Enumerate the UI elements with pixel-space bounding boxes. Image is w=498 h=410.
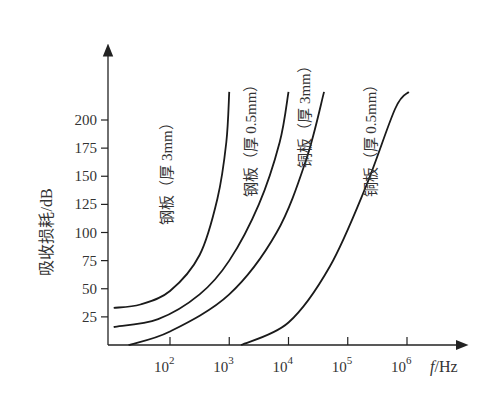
- absorption-loss-chart: 255075100125150175200 102103104105106 吸收…: [0, 0, 498, 410]
- curve-3: [241, 92, 409, 345]
- x-tick-label: 103: [213, 354, 234, 375]
- x-axis-title: f/Hz: [430, 358, 458, 376]
- y-tick-label: 50: [82, 281, 97, 297]
- y-axis-title: 吸收损耗/dB: [38, 188, 55, 275]
- label-steel-3mm: 钢板（厚 3mm）: [158, 115, 175, 225]
- x-tick-label: 105: [332, 354, 353, 375]
- y-tick-label: 200: [75, 112, 98, 128]
- y-tick-label: 175: [75, 140, 98, 156]
- x-ticks: 102103104105106: [154, 337, 412, 375]
- x-axis-unit: /Hz: [434, 358, 457, 375]
- curve-1: [114, 92, 289, 327]
- x-tick-label: 104: [273, 354, 294, 375]
- y-tick-label: 75: [82, 253, 97, 269]
- label-steel-0.5mm: 钢板（厚 0.5mm）: [242, 77, 259, 198]
- y-tick-label: 150: [75, 168, 98, 184]
- curve-2: [129, 92, 325, 345]
- y-tick-label: 100: [75, 225, 98, 241]
- y-tick-label: 25: [82, 309, 97, 325]
- y-ticks: 255075100125150175200: [75, 112, 109, 325]
- label-copper-3mm: 铜板（厚 3mm）: [296, 58, 313, 168]
- label-copper-0.5mm: 铜板（厚 0.5mm）: [362, 77, 379, 198]
- x-tick-label: 106: [391, 354, 412, 375]
- y-tick-label: 125: [75, 196, 98, 212]
- x-tick-label: 102: [154, 354, 175, 375]
